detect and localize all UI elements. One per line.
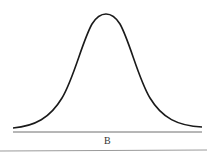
bottom-rule — [0, 150, 207, 151]
bell-curve-figure — [0, 0, 217, 155]
bell-curve — [13, 14, 202, 128]
axis-label: B — [104, 136, 111, 146]
